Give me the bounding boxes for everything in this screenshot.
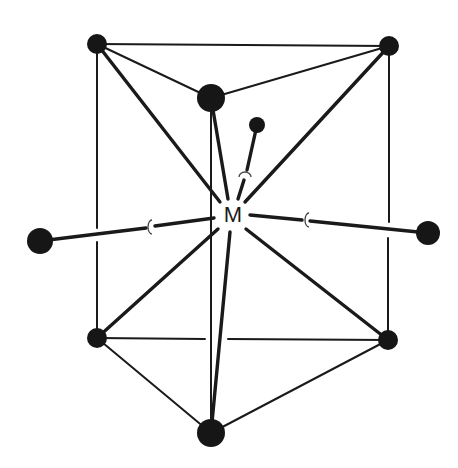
- bond-cap-right-inner: [250, 215, 302, 220]
- atoms: [27, 34, 440, 447]
- atom-prism-bottom-front: [197, 419, 225, 447]
- edge-top-right: [211, 46, 389, 98]
- diagram-canvas: [0, 0, 458, 468]
- atom-prism-bottom-right: [378, 330, 398, 350]
- bond-top-front: [211, 98, 228, 199]
- metal-bonds: [40, 44, 428, 433]
- bond-cap-right-outer: [310, 221, 428, 233]
- atom-prism-bottom-left: [87, 328, 107, 348]
- bond-top-left: [97, 44, 220, 202]
- atom-cap-left: [27, 228, 53, 254]
- atom-cap-right: [416, 221, 440, 245]
- edge-bottom-left: [97, 338, 211, 433]
- bond-bottom-left: [97, 229, 218, 338]
- marker-back-icon: [239, 172, 251, 177]
- bond-cap-back-inner: [238, 180, 244, 199]
- metal-center-label: M: [224, 204, 242, 226]
- edge-top-left: [97, 44, 211, 98]
- edge-top-back: [97, 44, 389, 46]
- atom-prism-top-right: [379, 36, 399, 56]
- marker-right-icon: [305, 213, 309, 227]
- atom-cap-back: [249, 117, 265, 133]
- edge-bottom-back-right: [228, 339, 388, 340]
- bond-cap-left-outer: [40, 228, 146, 241]
- bond-bottom-front: [211, 232, 230, 433]
- edge-bottom-right: [211, 340, 388, 433]
- edge-bottom-back-left: [97, 338, 205, 339]
- marker-left-icon: [148, 220, 152, 234]
- bond-cap-left-inner: [155, 218, 214, 226]
- coordination-diagram: M: [0, 0, 458, 468]
- bond-top-right: [245, 46, 389, 202]
- bond-bottom-right: [246, 229, 388, 340]
- atom-prism-top-front: [197, 84, 225, 112]
- atom-prism-top-left: [87, 34, 107, 54]
